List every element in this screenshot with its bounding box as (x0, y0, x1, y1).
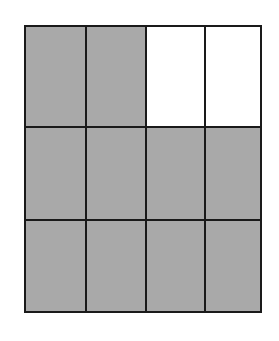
shaded-cell (87, 128, 147, 221)
shaded-cell (26, 128, 87, 221)
shaded-cell (26, 221, 87, 311)
unshaded-cell (206, 27, 260, 128)
shaded-cell (147, 221, 206, 311)
shaded-cell (26, 27, 87, 128)
fraction-grid (24, 25, 262, 313)
shaded-cell (206, 221, 260, 311)
unshaded-cell (147, 27, 206, 128)
shaded-cell (87, 27, 147, 128)
shaded-cell (87, 221, 147, 311)
shaded-cell (206, 128, 260, 221)
shaded-cell (147, 128, 206, 221)
